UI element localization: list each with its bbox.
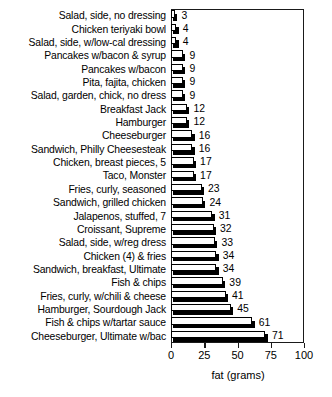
bar-face xyxy=(171,37,176,44)
bar-face xyxy=(171,317,252,324)
bar-face xyxy=(171,184,202,191)
bar-value-label: 61 xyxy=(259,317,271,328)
bar-value-label: 33 xyxy=(221,237,233,248)
category-label: Fish & chips xyxy=(0,276,169,289)
bar-value-label: 31 xyxy=(219,210,231,221)
category-label: Cheeseburger, Ultimate w/bac xyxy=(0,330,169,343)
bar-row: 39 xyxy=(171,276,332,289)
bar-value-label: 12 xyxy=(193,103,205,114)
bar xyxy=(171,37,176,48)
category-label: Jalapenos, stuffed, 7 xyxy=(0,209,169,222)
bar-face xyxy=(171,130,192,137)
bar-value-label: 9 xyxy=(189,76,195,87)
category-label: Breakfast Jack xyxy=(0,103,169,116)
bar-row: 34 xyxy=(171,249,332,262)
bar xyxy=(171,264,216,275)
bar-row: 17 xyxy=(171,156,332,169)
x-axis-tick-label: 75 xyxy=(265,349,277,361)
bar-face xyxy=(171,291,226,298)
bar-face xyxy=(171,157,194,164)
bar-row: 71 xyxy=(171,330,332,343)
bar-value-label: 4 xyxy=(183,36,189,47)
bar-row: 16 xyxy=(171,143,332,156)
bar-face xyxy=(171,10,175,17)
category-label: Cheeseburger xyxy=(0,129,169,142)
category-label: Hamburger xyxy=(0,116,169,129)
bar-value-label: 17 xyxy=(200,156,212,167)
bar xyxy=(171,224,214,235)
bar xyxy=(171,90,183,101)
bar-face xyxy=(171,144,192,151)
x-axis-title: fat (grams) xyxy=(171,369,305,381)
bar-row: 33 xyxy=(171,236,332,249)
bar-value-label: 71 xyxy=(272,330,284,341)
category-label: Hamburger, Sourdough Jack xyxy=(0,303,169,316)
bar xyxy=(171,277,223,288)
bar xyxy=(171,237,215,248)
bar xyxy=(171,291,226,302)
bar-value-label: 17 xyxy=(200,170,212,181)
bar-row: 32 xyxy=(171,223,332,236)
bars-layer: 3449999121216161717232431323334343941456… xyxy=(171,9,332,343)
bar xyxy=(171,317,252,328)
bar-row: 9 xyxy=(171,49,332,62)
bar xyxy=(171,184,202,195)
bar xyxy=(171,24,176,35)
bar-value-label: 34 xyxy=(223,250,235,261)
category-label: Salad, side, no dressing xyxy=(0,9,169,22)
bar xyxy=(171,104,187,115)
bar-value-label: 3 xyxy=(181,10,187,21)
bar xyxy=(171,331,265,342)
bar xyxy=(171,130,192,141)
bar xyxy=(171,64,183,75)
bar-row: 9 xyxy=(171,62,332,75)
x-axis-tick xyxy=(204,343,205,348)
bar-value-label: 4 xyxy=(183,23,189,34)
bar-face xyxy=(171,24,176,31)
bar xyxy=(171,211,212,222)
bar-row: 12 xyxy=(171,103,332,116)
x-axis-tick-label: 50 xyxy=(231,349,243,361)
bar-value-label: 9 xyxy=(189,50,195,61)
bar xyxy=(171,304,231,315)
category-label: Pancakes w/bacon xyxy=(0,62,169,75)
bar-row: 61 xyxy=(171,316,332,329)
x-axis-tick-label: 0 xyxy=(168,349,174,361)
bar xyxy=(171,77,183,88)
fat-grams-bar-chart: Salad, side, no dressingChicken teriyaki… xyxy=(0,0,332,397)
category-axis-labels: Salad, side, no dressingChicken teriyaki… xyxy=(0,9,169,343)
bar-row: 3 xyxy=(171,9,332,22)
bar-row: 4 xyxy=(171,22,332,35)
bar-value-label: 9 xyxy=(189,63,195,74)
category-label: Fish & chips w/tartar sauce xyxy=(0,316,169,329)
bar-row: 24 xyxy=(171,196,332,209)
x-axis: 0255075100 xyxy=(171,343,305,344)
bar-face xyxy=(171,77,183,84)
category-label: Chicken teriyaki bowl xyxy=(0,22,169,35)
category-label: Pancakes w/bacon & syrup xyxy=(0,49,169,62)
bar xyxy=(171,157,194,168)
bar-row: 9 xyxy=(171,76,332,89)
bar-value-label: 45 xyxy=(237,303,249,314)
x-axis-tick xyxy=(304,343,305,348)
bar-row: 12 xyxy=(171,116,332,129)
bar-value-label: 9 xyxy=(189,90,195,101)
bar-row: 9 xyxy=(171,89,332,102)
bar-row: 17 xyxy=(171,169,332,182)
bar xyxy=(171,10,175,21)
bar-row: 45 xyxy=(171,303,332,316)
bar xyxy=(171,197,203,208)
x-axis-tick xyxy=(271,343,272,348)
bar-face xyxy=(171,224,214,231)
x-axis-tick-label: 25 xyxy=(198,349,210,361)
bar-row: 4 xyxy=(171,36,332,49)
category-label: Fries, curly, seasoned xyxy=(0,183,169,196)
x-axis-tick xyxy=(171,343,172,348)
category-label: Croissant, Supreme xyxy=(0,223,169,236)
bar-face xyxy=(171,171,194,178)
bar-face xyxy=(171,237,215,244)
bar-row: 23 xyxy=(171,183,332,196)
bar-row: 31 xyxy=(171,209,332,222)
category-label: Sandwich, breakfast, Ultimate xyxy=(0,263,169,276)
bar-face xyxy=(171,277,223,284)
